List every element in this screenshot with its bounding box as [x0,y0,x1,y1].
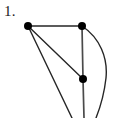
top-right-vertex [78,22,86,30]
graph-canvas [0,0,118,118]
edge-vertical-continues-below [83,79,84,118]
graph-figure: 1. [0,0,118,118]
middle-vertex [79,75,87,83]
edge-long-diagonal-to-crop [28,26,72,118]
top-left-vertex [24,22,32,30]
edge-curved-arc-right [82,26,106,118]
edge-group [28,26,106,118]
edge-vertical-right [82,26,83,79]
edge-diagonal-to-middle [28,26,83,79]
